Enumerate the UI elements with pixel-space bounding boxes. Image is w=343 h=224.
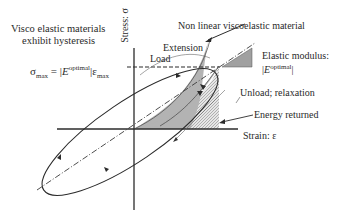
unload-label: Unload; relaxation (240, 87, 315, 98)
eq-equals: = (48, 65, 60, 77)
energy-returned-label: Energy returned (254, 109, 319, 120)
eq-sigma-sub: max (36, 72, 48, 80)
eq-eps-sub: max (97, 72, 109, 80)
elastic-modulus-triangle (222, 48, 252, 67)
sigma-max-equation: σmax = |Eoptimal|εmax (30, 64, 109, 80)
energy-pointer (222, 115, 253, 122)
title-line-2: exhibit hysteresis (22, 35, 95, 46)
elastic-modulus-value: |Eoptimal| (262, 63, 294, 75)
nonlinear-label: Non linear viscoelastic material (178, 20, 305, 31)
title-line-1: Visco elastic materials (11, 23, 105, 34)
load-label: Load (150, 53, 171, 64)
extension-label: Extension (163, 42, 203, 53)
x-axis-label: Strain: ε (243, 130, 276, 141)
eq-E-sup: optimal (69, 64, 90, 72)
y-axis-label: Stress: σ (119, 8, 130, 43)
elastic-modulus-label: Elastic modulus: (262, 50, 329, 61)
eq-E: E (62, 65, 69, 77)
em-E-sup: optimal (270, 63, 291, 71)
